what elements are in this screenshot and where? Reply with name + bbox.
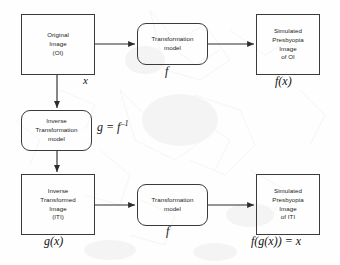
math-label-fx: f(x) <box>275 74 292 89</box>
diagram-canvas: Original Image (OI) x Transformation mod… <box>0 0 340 265</box>
node-transformation-model-bottom-label: Transformation model <box>151 196 193 214</box>
node-original-image: Original Image (OI) <box>21 14 95 75</box>
math-label-f-top: f <box>165 64 168 79</box>
math-label-g-equals-f-inverse: g = f–1 <box>97 119 129 135</box>
math-label-f-bottom: f <box>166 224 169 239</box>
node-simulated-presbyopia-iti: Simulated Presbyopia Image of ITI <box>256 174 320 235</box>
math-label-x: x <box>83 74 88 86</box>
node-simulated-presbyopia-oi-label: Simulated Presbyopia Image of OI <box>272 27 303 63</box>
node-transformation-model-top-label: Transformation model <box>151 35 193 53</box>
node-simulated-presbyopia-oi: Simulated Presbyopia Image of OI <box>256 14 320 75</box>
node-inverse-transformed-image: Inverse Transformed Image (ITI) <box>21 174 95 235</box>
node-inverse-transformed-image-label: Inverse Transformed Image (ITI) <box>40 187 75 223</box>
node-transformation-model-bottom: Transformation model <box>137 184 208 226</box>
node-transformation-model-top: Transformation model <box>137 23 208 65</box>
node-inverse-transformation-model-label: Inverse Transformation model <box>35 117 77 144</box>
math-label-g-equals-f-base: g = f <box>97 120 120 134</box>
math-label-fgx: f(g(x)) = x <box>251 234 301 249</box>
math-label-gx: g(x) <box>44 234 63 249</box>
node-original-image-label: Original Image (OI) <box>47 31 69 58</box>
node-inverse-transformation-model: Inverse Transformation model <box>21 110 92 151</box>
node-simulated-presbyopia-iti-label: Simulated Presbyopia Image of ITI <box>272 187 303 223</box>
math-label-f-inverse-exponent: –1 <box>120 119 128 128</box>
